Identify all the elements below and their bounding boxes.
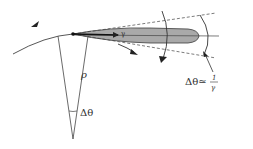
lower-motion-arrow-icon <box>130 49 138 55</box>
rotation-arc-1-arrow-icon <box>159 56 167 63</box>
radius-line-right <box>73 36 88 139</box>
charge-point <box>71 32 75 36</box>
formula-denominator: γ <box>211 84 216 92</box>
opening-angle-arc <box>200 15 208 55</box>
rho-label: ρ <box>80 69 87 80</box>
gamma-mark-label: γ <box>121 30 125 38</box>
radius-line-left <box>58 36 73 139</box>
formula-lhs: Δθ≃ <box>185 76 207 87</box>
velocity-arrow <box>73 34 118 35</box>
orbit-direction-arrow-icon <box>31 21 39 27</box>
apex-angle-arc <box>69 111 77 112</box>
synchrotron-cone-diagram: γ ρ Δθ Δθ≃ 1 γ <box>0 0 253 149</box>
delta-theta-label: Δθ <box>80 107 93 118</box>
formula-numerator: 1 <box>212 74 216 82</box>
